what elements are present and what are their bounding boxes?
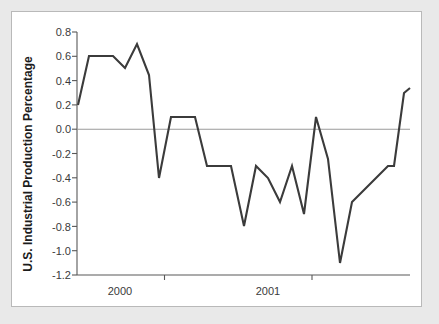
chart-panel: U.S. Industrial Production Percentage 0.… bbox=[11, 11, 422, 307]
x-tick-label: 2001 bbox=[256, 285, 280, 297]
x-axis-ticks bbox=[165, 275, 313, 280]
y-tick-label: 0.8 bbox=[56, 26, 71, 38]
y-axis-tick-labels: 0.8 0.6 0.4 0.2 0.0 -0.2 -0.4 -0.6 -0.8 … bbox=[52, 26, 71, 281]
y-tick-label: -1.2 bbox=[52, 269, 71, 281]
y-tick-label: -0.2 bbox=[52, 148, 71, 160]
y-axis-ticks bbox=[72, 32, 77, 275]
y-tick-label: -0.6 bbox=[52, 196, 71, 208]
y-axis-title-group: U.S. Industrial Production Percentage bbox=[21, 56, 35, 272]
y-axis-title: U.S. Industrial Production Percentage bbox=[21, 56, 35, 272]
y-tick-label: -0.8 bbox=[52, 221, 71, 233]
y-tick-label: 0.0 bbox=[56, 123, 71, 135]
line-chart: U.S. Industrial Production Percentage 0.… bbox=[12, 12, 421, 306]
y-tick-label: -0.4 bbox=[52, 172, 71, 184]
x-axis-tick-labels: 2000 2001 bbox=[108, 285, 280, 297]
data-series-line bbox=[78, 44, 410, 263]
figure-root: U.S. Industrial Production Percentage 0.… bbox=[0, 0, 439, 324]
y-tick-label: 0.6 bbox=[56, 50, 71, 62]
y-tick-label: 0.2 bbox=[56, 99, 71, 111]
y-tick-label: 0.4 bbox=[56, 75, 71, 87]
y-tick-label: -1.0 bbox=[52, 245, 71, 257]
x-tick-label: 2000 bbox=[108, 285, 132, 297]
